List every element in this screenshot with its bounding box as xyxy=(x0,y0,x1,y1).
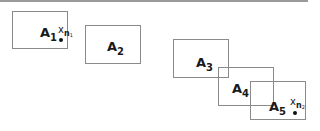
label-subscript: 5 xyxy=(279,106,286,117)
point-xn1-label: xn1 xyxy=(58,25,73,38)
label-subscript: 4 xyxy=(242,88,249,99)
region-a5-label: A5 xyxy=(269,100,286,117)
label-base: A xyxy=(269,99,279,114)
point-subsubscript: 2 xyxy=(302,104,305,110)
region-a4-label: A4 xyxy=(232,82,249,99)
region-a3-label: A3 xyxy=(196,56,213,73)
top-rule-line xyxy=(0,0,308,2)
label-base: A xyxy=(196,55,206,70)
label-base: A xyxy=(40,25,50,40)
label-subscript: 3 xyxy=(206,62,213,73)
point-subsubscript: 1 xyxy=(70,32,73,38)
point-xn2-dot xyxy=(293,111,297,115)
label-base: A xyxy=(232,81,242,96)
region-a2-label: A2 xyxy=(107,40,124,57)
region-a1-label: A1 xyxy=(40,26,57,43)
label-subscript: 1 xyxy=(50,32,57,43)
label-subscript: 2 xyxy=(117,46,124,57)
point-xn2-label: xn2 xyxy=(290,97,305,110)
label-base: A xyxy=(107,39,117,54)
point-xn1-dot xyxy=(59,38,63,42)
